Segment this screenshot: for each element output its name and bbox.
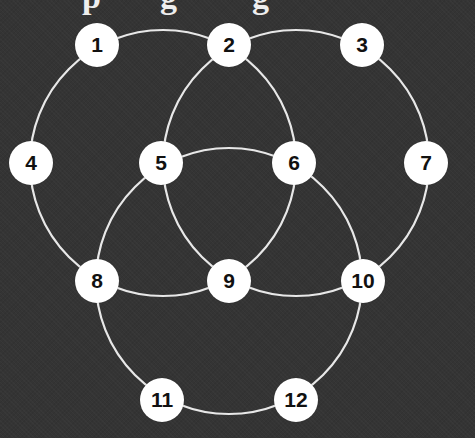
node-4: 4 xyxy=(9,141,53,185)
node-11: 11 xyxy=(140,378,184,422)
node-label: 11 xyxy=(151,388,173,412)
node-2: 2 xyxy=(207,23,251,67)
node-label: 12 xyxy=(284,388,307,412)
diagram-canvas: p g g 123456789101112 xyxy=(0,0,475,438)
node-label: 7 xyxy=(420,151,432,175)
node-12: 12 xyxy=(274,378,318,422)
node-3: 3 xyxy=(340,23,384,67)
node-label: 5 xyxy=(155,151,167,175)
node-label: 6 xyxy=(288,151,300,175)
node-9: 9 xyxy=(207,259,251,303)
node-5: 5 xyxy=(139,141,183,185)
node-label: 8 xyxy=(91,269,103,293)
node-label: 3 xyxy=(356,33,368,57)
node-label: 9 xyxy=(223,269,235,293)
node-6: 6 xyxy=(272,141,316,185)
node-7: 7 xyxy=(404,141,448,185)
node-label: 4 xyxy=(25,151,37,175)
circle-edges xyxy=(0,0,475,438)
node-label: 2 xyxy=(223,33,235,57)
node-8: 8 xyxy=(75,259,119,303)
node-1: 1 xyxy=(75,23,119,67)
node-label: 10 xyxy=(351,269,374,293)
node-10: 10 xyxy=(341,259,385,303)
node-label: 1 xyxy=(91,33,103,57)
